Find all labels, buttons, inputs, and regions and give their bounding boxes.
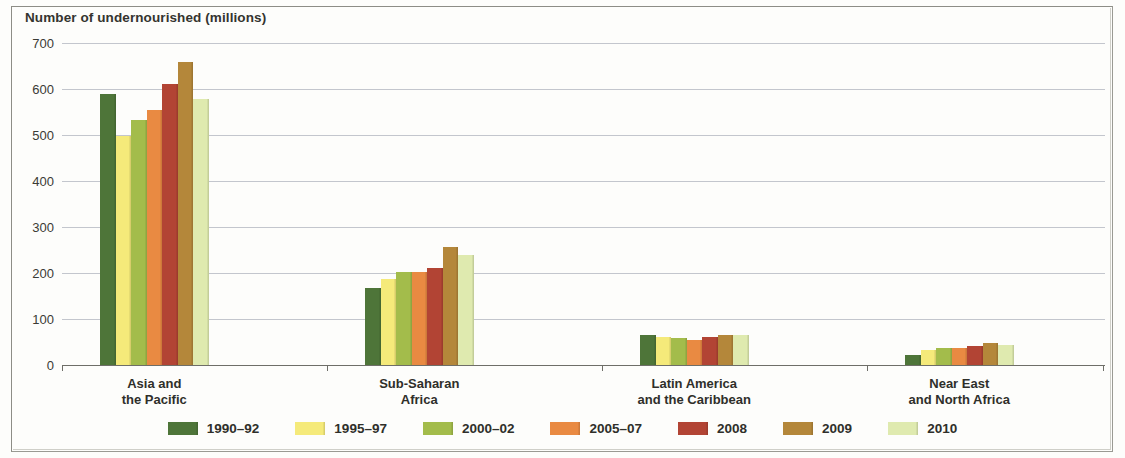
x-axis-category-label: Sub-SaharanAfrica [379,376,459,407]
y-axis-tick-label: 400 [12,174,54,189]
bar [381,279,397,365]
bar [162,84,178,365]
bar-group [905,43,1014,365]
y-axis-tick-label: 0 [12,358,54,373]
category-label-line1: Latin America [638,376,751,392]
bar [733,335,749,365]
category-label-line2: and North Africa [909,392,1010,408]
bar [396,272,412,365]
bar-group [365,43,474,365]
legend-item[interactable]: 2009 [783,421,852,436]
category-label-line2: Africa [379,392,459,408]
legend-swatch [168,422,198,435]
bar [718,335,734,365]
legend-label: 1995–97 [334,421,387,436]
x-axis-category-label: Asia andthe Pacific [122,376,187,407]
x-axis-tick [62,365,63,371]
legend-swatch [550,422,580,435]
bar [412,272,428,365]
x-axis-tick [867,365,868,371]
bar [952,348,968,365]
bar [656,337,672,365]
legend-label: 2009 [822,421,852,436]
x-axis-tick [327,365,328,371]
bar [967,346,983,365]
bar [921,350,937,365]
y-axis-tick-label: 100 [12,312,54,327]
bar [702,337,718,365]
legend-label: 2008 [717,421,747,436]
bar-group [640,43,749,365]
x-axis-line [62,365,1105,366]
chart-figure: Number of undernourished (millions) 7006… [0,0,1125,458]
legend-item[interactable]: 2008 [678,421,747,436]
bar [131,120,147,365]
legend-label: 2005–07 [589,421,642,436]
category-label-line2: and the Caribbean [638,392,751,408]
bar [178,62,194,365]
legend-swatch [423,422,453,435]
legend-swatch [888,422,918,435]
bar [671,338,687,365]
bar [427,268,443,365]
bar [936,348,952,365]
bar [640,335,656,365]
bar [998,345,1014,365]
x-axis-tick [1103,365,1104,371]
legend-item[interactable]: 2000–02 [423,421,515,436]
bar [687,340,703,365]
bar [905,355,921,365]
bar-group [100,43,209,365]
y-axis-tick-label: 500 [12,128,54,143]
bar [100,94,116,365]
y-axis-tick-label: 200 [12,266,54,281]
category-label-line1: Sub-Saharan [379,376,459,392]
legend-swatch [783,422,813,435]
bar [443,247,459,365]
bar [365,288,381,365]
bar [147,110,163,365]
legend-swatch [678,422,708,435]
legend-label: 2000–02 [462,421,515,436]
x-axis-category-label: Near Eastand North Africa [909,376,1010,407]
y-axis-tick-label: 300 [12,220,54,235]
legend-swatch [295,422,325,435]
legend-item[interactable]: 1995–97 [295,421,387,436]
category-label-line1: Near East [909,376,1010,392]
y-axis-tick-label: 600 [12,82,54,97]
legend-label: 2010 [927,421,957,436]
y-axis-tick-labels: 7006005004003002001000 [8,43,54,365]
category-label-line2: the Pacific [122,392,187,408]
category-label-line1: Asia and [122,376,187,392]
plot-area [62,43,1105,365]
x-axis-category-label: Latin Americaand the Caribbean [638,376,751,407]
legend-item[interactable]: 2005–07 [550,421,642,436]
x-axis-tick [602,365,603,371]
chart-axis-title: Number of undernourished (millions) [25,10,266,25]
bar [116,136,132,365]
legend-item[interactable]: 1990–92 [168,421,260,436]
legend-item[interactable]: 2010 [888,421,957,436]
chart-legend: 1990–921995–972000–022005–07200820092010 [0,421,1125,436]
bar [458,255,474,365]
y-axis-tick-label: 700 [12,36,54,51]
legend-label: 1990–92 [207,421,260,436]
bar [983,343,999,365]
bar [193,99,209,365]
